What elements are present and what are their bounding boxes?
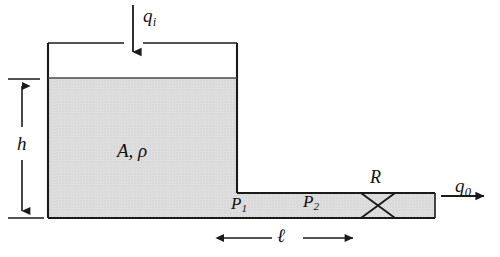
inflow-subscript: i bbox=[153, 15, 156, 29]
pressure-2-subscript: 2 bbox=[314, 200, 320, 212]
pressure-1-symbol: P bbox=[231, 194, 241, 213]
outflow-symbol: q bbox=[455, 175, 465, 196]
pipe-length-label: ℓ bbox=[277, 226, 285, 245]
inflow-symbol: q bbox=[143, 5, 153, 26]
pressure-2-label: P2 bbox=[303, 193, 319, 212]
tank-system-diagram: qi q0 h A, ρ P1 P2 R ℓ bbox=[0, 0, 500, 257]
pressure-1-label: P1 bbox=[231, 195, 247, 214]
inflow-label: qi bbox=[143, 6, 156, 28]
tank-properties-label: A, ρ bbox=[117, 141, 147, 160]
pressure-1-subscript: 1 bbox=[242, 202, 248, 214]
resistance-label: R bbox=[370, 168, 381, 186]
pressure-2-symbol: P bbox=[303, 192, 313, 211]
outflow-subscript: 0 bbox=[465, 185, 471, 199]
diagram-canvas bbox=[0, 0, 500, 257]
outflow-label: q0 bbox=[455, 176, 471, 198]
height-label: h bbox=[17, 134, 27, 153]
